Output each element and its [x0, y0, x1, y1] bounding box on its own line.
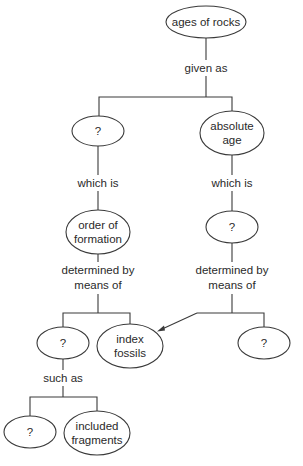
svg-text:?: ? [60, 337, 66, 349]
arrow-to-index-fossils [160, 313, 197, 330]
link-label-which-is-left: which is [77, 177, 119, 189]
connector-given-as-split [99, 97, 232, 116]
node-ages-of-rocks: ages of rocks [166, 6, 246, 38]
svg-text:?: ? [27, 426, 33, 438]
node-included-fragments: included fragments [64, 411, 130, 455]
svg-text:age: age [222, 134, 241, 146]
svg-text:?: ? [229, 221, 235, 233]
link-label-determined-right-2: means of [208, 279, 256, 291]
concept-map: given as which is which is determined by… [0, 0, 303, 466]
node-absolute-method-unknown: ? [238, 327, 290, 359]
node-example-unknown: ? [4, 416, 56, 448]
svg-text:order of: order of [78, 219, 118, 231]
connector-determined-right-split [197, 313, 264, 327]
node-relative-unknown: ? [72, 116, 124, 146]
svg-text:ages of rocks: ages of rocks [172, 16, 241, 28]
link-label-determined-left-1: determined by [62, 264, 135, 276]
link-label-which-is-right: which is [211, 177, 253, 189]
svg-text:index: index [116, 333, 144, 345]
link-label-determined-right-1: determined by [196, 264, 269, 276]
node-order-of-formation: order of formation [66, 210, 130, 254]
svg-text:fragments: fragments [71, 434, 122, 446]
link-label-determined-left-2: means of [74, 279, 122, 291]
svg-text:?: ? [95, 125, 101, 137]
node-absolute-age: absolute age [200, 111, 264, 155]
node-absolute-unknown: ? [206, 211, 258, 243]
svg-text:included: included [76, 420, 119, 432]
svg-text:fossils: fossils [114, 347, 146, 359]
link-label-such-as: such as [43, 372, 83, 384]
svg-text:formation: formation [74, 233, 122, 245]
node-method-unknown: ? [37, 327, 89, 359]
link-label-given-as: given as [185, 62, 228, 74]
arrowhead-icon [157, 326, 165, 332]
svg-text:absolute: absolute [210, 120, 253, 132]
node-index-fossils: index fossils [97, 324, 163, 368]
svg-text:?: ? [261, 337, 267, 349]
